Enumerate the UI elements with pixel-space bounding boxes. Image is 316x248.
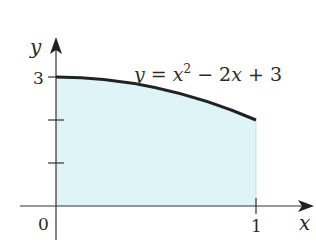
origin-label: 0 xyxy=(38,214,49,234)
shaded-area xyxy=(56,77,256,206)
equation-label: y = x2 − 2x + 3 xyxy=(133,62,282,85)
y-tick-label-3: 3 xyxy=(33,68,44,88)
function-diagram: y 3 0 1 x y = x2 − 2x + 3 xyxy=(0,0,316,248)
x-axis-label: x xyxy=(299,211,310,235)
y-axis-label: y xyxy=(29,35,42,59)
x-tick-label-1: 1 xyxy=(251,216,262,236)
